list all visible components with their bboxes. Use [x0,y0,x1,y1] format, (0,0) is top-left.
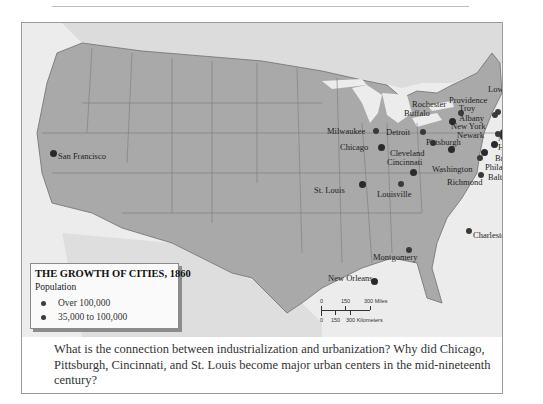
scale-tick [350,310,351,315]
city-label-richmond: Richmond [447,178,482,187]
scale-tick [370,306,371,310]
scale-bar: 0 150 300 Miles 0 150 300 Kilometers [320,298,430,330]
legend-item-35000-100000: 35,000 to 100,000 [41,312,127,322]
city-label-boston: Boston [502,86,503,95]
city-dot-detroit [420,129,426,135]
city-label-pittsburgh: Pittsburgh [426,138,461,147]
city-label-newark: Newark [457,131,484,140]
legend-item-label: Over 100,000 [58,298,110,308]
scale-line [321,310,370,311]
city-label-providence: Providence [449,96,487,105]
city-label-buffalo: Buffalo [404,109,430,118]
city-label-cincinnati: Cincinnati [387,158,422,167]
large-dot-icon [41,301,46,306]
map-title: THE GROWTH OF CITIES, 1860 [35,268,191,279]
city-label-lowell: Lowell [488,85,503,94]
city-label-montgomery: Montgomery [373,253,417,262]
legend-item-label: 35,000 to 100,000 [58,312,127,322]
scale-km-150: 150 [331,317,340,323]
city-label-rochester: Rochester [412,100,446,109]
city-label-troy: Troy [459,104,475,113]
city-label-detroit: Detroit [386,128,410,137]
city-dot-brooklyn [500,133,503,140]
city-label-milwaukee: Milwaukee [327,127,365,136]
city-label-st-louis: St. Louis [314,186,345,195]
city-dot-philadelphia [491,141,498,148]
city-dot-milwaukee [373,128,379,134]
city-dot-san-francisco [50,150,57,157]
scale-miles-300: 300 Miles [364,298,388,304]
legend-item-over-100000: Over 100,000 [41,298,110,308]
legend-subtitle: Population [35,282,76,292]
city-dot-chicago [378,144,385,151]
city-label-baltimore: Baltimore [488,173,503,182]
city-dot-charleston [466,228,472,234]
city-label-new-orleans: New Orleans [328,274,373,283]
city-label-charleston: Charleston [473,231,503,240]
scale-miles-150: 150 [341,298,350,304]
city-dot-washington [477,155,483,161]
scale-tick [335,310,336,315]
small-dot-icon [41,315,46,320]
map-legend: THE GROWTH OF CITIES, 1860 Population Ov… [30,263,179,329]
city-dot-cincinnati [410,169,417,176]
city-dot-louisville [398,181,404,187]
city-label-san-francisco: San Francisco [58,152,106,161]
scale-tick [345,306,346,310]
city-label-washington: Washington [432,165,472,174]
caption-question: What is the connection between industria… [54,342,494,389]
city-dot-troy [495,109,501,115]
scale-tick [321,306,322,316]
city-label-chicago: Chicago [340,143,368,152]
scale-miles-0: 0 [320,298,323,304]
map-caption: What is the connection between industria… [21,337,503,394]
scale-km-300: 300 Kilometers [346,317,383,323]
top-rule [52,6,469,7]
map-frame: San Francisco Milwaukee Chicago Detroit … [21,22,503,338]
city-dot-pittsburgh [448,146,455,153]
scale-km-0: 0 [320,317,323,323]
city-label-philadelphia: Philadelphia [485,163,503,172]
city-dot-st-louis [359,181,366,188]
city-label-louisville: Louisville [377,190,411,199]
